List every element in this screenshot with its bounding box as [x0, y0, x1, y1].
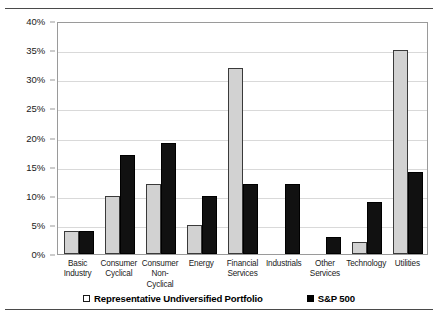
x-axis-tick-label: Utilities [387, 259, 428, 269]
bar-group [58, 23, 99, 254]
x-axis-tick-label: BasicIndustry [57, 259, 98, 280]
bar-group [264, 23, 305, 254]
bar [285, 184, 300, 254]
y-axis-tick-label: 20% [26, 134, 45, 144]
bar [146, 184, 161, 254]
y-axis-tick-mark [50, 22, 55, 23]
legend-label-sp500: S&P 500 [318, 293, 355, 304]
y-axis-tick-label: 25% [26, 105, 45, 115]
y-axis-tick-label: 0% [31, 250, 45, 260]
bar-group [182, 23, 223, 254]
x-axis-tick-label: ConsumerCyclical [98, 259, 139, 280]
y-axis-tick-label: 40% [26, 17, 45, 27]
legend-item-portfolio: Representative Undiversified Portfolio [83, 293, 263, 304]
light-square-icon [83, 295, 90, 302]
y-axis-tick-mark [50, 196, 55, 197]
y-axis-tick-label: 35% [26, 46, 45, 56]
bar [79, 231, 94, 254]
y-axis-tick-mark [50, 167, 55, 168]
bar-group [388, 23, 429, 254]
y-axis-tick-label: 15% [26, 163, 45, 173]
x-axis-tick-label: FinancialServices [222, 259, 263, 280]
y-axis-tick-mark [50, 225, 55, 226]
bar [202, 196, 217, 254]
legend-item-sp500: S&P 500 [307, 293, 355, 304]
bar [161, 143, 176, 254]
bottom-divider [5, 309, 433, 310]
bar [367, 202, 382, 254]
y-axis-tick-mark [50, 255, 55, 256]
bar [120, 155, 135, 254]
bar [352, 242, 367, 254]
x-axis-labels: BasicIndustryConsumerCyclicalConsumerNon… [57, 259, 428, 289]
bar [408, 172, 423, 254]
x-axis-tick-label: OtherServices [304, 259, 345, 280]
bar [187, 225, 202, 254]
x-axis-tick-label: Energy [181, 259, 222, 269]
bar [393, 50, 408, 254]
y-axis-tick-mark [50, 51, 55, 52]
bar-group [347, 23, 388, 254]
bar [64, 231, 79, 254]
y-axis-tick-label: 5% [31, 221, 45, 231]
x-axis-tick-label: ConsumerNon-Cyclical [139, 259, 180, 290]
bar [228, 68, 243, 254]
bar-group [305, 23, 346, 254]
legend-label-portfolio: Representative Undiversified Portfolio [94, 293, 263, 304]
chart-figure: 0%5%10%15%20%25%30%35%40% BasicIndustryC… [0, 0, 438, 314]
bar [326, 237, 341, 254]
x-axis-tick-label: Technology [346, 259, 387, 269]
y-axis-tick-mark [50, 80, 55, 81]
bar-group [99, 23, 140, 254]
y-axis-tick-label: 10% [26, 192, 45, 202]
y-axis: 0%5%10%15%20%25%30%35%40% [0, 22, 52, 255]
y-axis-tick-mark [50, 138, 55, 139]
bar [105, 196, 120, 254]
chart-legend: Representative Undiversified Portfolio S… [0, 293, 438, 304]
x-axis-tick-label: Industrials [263, 259, 304, 269]
y-axis-tick-label: 30% [26, 76, 45, 86]
plot-area [57, 22, 428, 255]
bar-group [223, 23, 264, 254]
top-divider [5, 8, 433, 9]
bar-group [140, 23, 181, 254]
black-square-icon [307, 295, 314, 302]
y-axis-tick-mark [50, 109, 55, 110]
bar [243, 184, 258, 254]
